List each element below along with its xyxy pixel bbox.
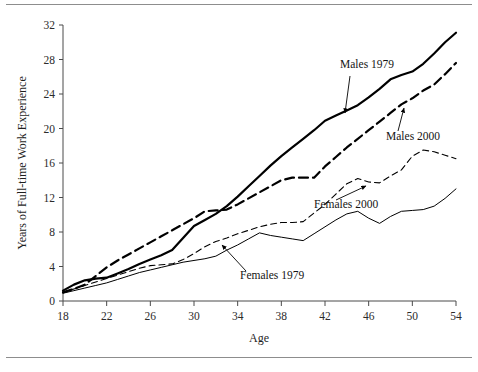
annotation-label-males-2000: Males 2000 (386, 130, 440, 142)
line-chart: 048121620242832 18222630343842465054 Mal… (0, 0, 478, 372)
y-tick-label-24: 24 (44, 88, 56, 100)
annotation-label-females-1979: Females 1979 (240, 269, 304, 281)
chart-series-group (63, 33, 456, 293)
x-tick-label-26: 26 (145, 310, 157, 322)
annotation-arrow-males-1979 (345, 76, 350, 113)
annotation-label-males-1979: Males 1979 (340, 58, 394, 70)
x-tick-label-38: 38 (276, 310, 288, 322)
x-tick-label-18: 18 (57, 310, 69, 322)
x-tick-label-42: 42 (319, 310, 331, 322)
y-axis-ticks: 048121620242832 (44, 19, 64, 307)
x-tick-label-54: 54 (450, 310, 462, 322)
y-tick-label-4: 4 (49, 261, 55, 273)
x-axis-title: Age (249, 331, 269, 345)
y-tick-label-8: 8 (49, 226, 55, 238)
y-tick-label-28: 28 (44, 54, 56, 66)
series-males-2000 (63, 63, 456, 292)
x-tick-label-50: 50 (407, 310, 419, 322)
annotation-arrow-males-2000 (398, 108, 404, 131)
x-tick-label-30: 30 (188, 310, 200, 322)
x-axis-ticks: 18222630343842465054 (57, 301, 462, 322)
annotation-arrow-females-1979 (222, 245, 246, 271)
figure-container: 048121620242832 18222630343842465054 Mal… (0, 0, 478, 372)
chart-annotations-group: Males 1979Males 2000Females 2000Females … (222, 58, 440, 281)
y-tick-label-20: 20 (44, 123, 56, 135)
y-tick-label-12: 12 (44, 192, 56, 204)
x-tick-label-34: 34 (232, 310, 244, 322)
x-tick-label-22: 22 (101, 310, 113, 322)
y-tick-label-16: 16 (44, 157, 56, 169)
series-males-1979 (63, 33, 456, 291)
y-tick-label-32: 32 (44, 19, 56, 31)
y-tick-label-0: 0 (49, 295, 55, 307)
x-tick-label-46: 46 (363, 310, 375, 322)
y-axis-title: Years of Full-time Work Experience (15, 76, 29, 250)
annotation-label-females-2000: Females 2000 (314, 198, 378, 210)
